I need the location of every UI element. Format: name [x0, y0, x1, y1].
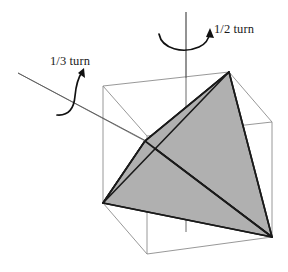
third-turn-label: 1/3 turn — [50, 54, 90, 69]
axis-overlay-segments — [18, 12, 186, 141]
half-turn-label: 1/2 turn — [214, 22, 254, 37]
cube-edge-front-top — [103, 72, 229, 86]
cube-edge-connect-top-left — [103, 86, 147, 136]
third-turn-arrow — [57, 68, 85, 115]
tetrahedron-body — [103, 72, 272, 237]
geometry-illustration — [0, 0, 288, 272]
half-turn-arrow — [159, 28, 214, 50]
half-turn-arrow-curve — [159, 32, 210, 50]
half-turn-arrowhead — [206, 28, 214, 38]
third-turn-arrow-curve — [57, 72, 82, 115]
figure-canvas: 1/2 turn 1/3 turn — [0, 0, 288, 272]
cube-edge-back-bottom — [147, 237, 272, 254]
